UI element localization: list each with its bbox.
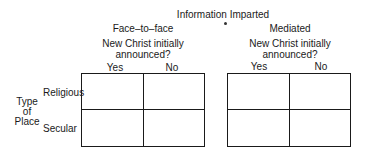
row-label-religious: Religious [43,87,84,98]
column-header-yes: Yes [239,61,279,72]
column-header-yes: Yes [95,62,135,73]
diagram-title: Information Imparted [168,9,278,20]
group-label-mediated: Mediated [240,23,340,34]
group-question-line1: New Christ initially [240,38,340,49]
row-axis-line3: Place [12,116,42,127]
group-label-face-to-face: Face–to–face [93,23,193,34]
left-grid-divider-h [81,109,205,110]
column-header-no: No [301,61,341,72]
row-label-secular: Secular [43,123,77,134]
right-grid-divider-h [227,109,351,110]
marker-dot [224,22,227,25]
group-question-line2: announced? [93,49,193,60]
group-question-line1: New Christ initially [93,38,193,49]
column-header-no: No [152,62,192,73]
group-question-line2: announced? [240,49,340,60]
